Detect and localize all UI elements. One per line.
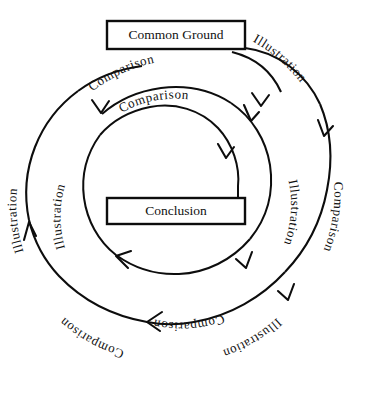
middle-arc-bottom <box>116 239 250 274</box>
outer-label-top-right-text: Illustration <box>251 31 310 85</box>
middle-label-left: Illustration <box>48 182 68 252</box>
outer-arrow-3 <box>278 284 294 300</box>
middle-label-top: Comparison <box>116 87 190 116</box>
outer-label-bottom-right: Illustration <box>221 316 285 362</box>
spiral-diagram-canvas: Common Ground Conclusion Illustration Co… <box>0 0 379 409</box>
outer-label-top-right: Illustration <box>251 31 310 85</box>
outer-label-left: Illustration <box>4 187 26 255</box>
outer-label-bottom-left: Comparison <box>56 315 125 362</box>
outer-label-top: Comparison <box>85 51 155 94</box>
outer-label-bottom-right-text: Illustration <box>221 316 285 362</box>
common-ground-label: Common Ground <box>129 27 224 42</box>
middle-label-bottom-text: Comparison <box>152 312 227 335</box>
middle-arrow-2 <box>244 105 259 121</box>
outer-label-top-text: Comparison <box>85 51 155 94</box>
middle-label-top-text: Comparison <box>116 87 190 116</box>
outer-label-bottom-left-text: Comparison <box>56 315 125 362</box>
outer-arc-bottom-left <box>29 220 147 322</box>
outer-label-left-text: Illustration <box>4 187 26 255</box>
inner-arrow-1 <box>218 144 234 158</box>
middle-label-right: Illustration <box>281 178 303 248</box>
middle-label-left-text: Illustration <box>48 182 68 252</box>
conclusion-label: Conclusion <box>145 203 207 218</box>
common-ground-box: Common Ground <box>107 21 245 49</box>
middle-arc-left <box>83 135 116 255</box>
inner-arc <box>100 106 238 198</box>
middle-arrow-3 <box>236 252 252 268</box>
outer-label-right: Comparison <box>321 182 347 255</box>
outer-label-right-text: Comparison <box>321 182 347 255</box>
spiral-diagram: Common Ground Conclusion Illustration Co… <box>0 0 379 409</box>
middle-label-right-text: Illustration <box>281 178 303 248</box>
conclusion-box: Conclusion <box>107 198 245 224</box>
middle-label-bottom: Comparison <box>152 312 227 335</box>
outer-arrow-1 <box>252 93 269 106</box>
